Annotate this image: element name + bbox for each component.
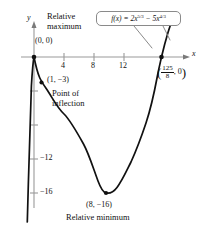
inflection-note-line2: inflection — [52, 99, 85, 108]
formula-lhs: f(x) = — [111, 14, 130, 23]
x-intercept-label: (1258, 0) — [157, 63, 186, 80]
y-axis-arrow — [32, 21, 37, 28]
inflection-point-label: (1, −3) — [47, 76, 69, 85]
point-relative-maximum — [32, 55, 37, 60]
x-tick-label-8: 8 — [91, 62, 95, 71]
formula-term2-exp: 4/3 — [160, 14, 166, 19]
point-inflection — [39, 80, 43, 84]
curve-left-branch — [27, 57, 34, 222]
y-axis-label: y — [27, 14, 31, 23]
x-axis-arrow — [183, 55, 190, 60]
point-x-intercept — [159, 55, 164, 60]
x-intercept-tail: , 0 — [174, 68, 182, 77]
x-axis-label: x — [192, 50, 196, 59]
relative-minimum-label: Relative minimum — [66, 213, 130, 222]
point-relative-minimum — [104, 191, 108, 195]
relative-maximum-line1: Relative — [47, 12, 75, 21]
relative-maximum-point-label: (0, 0) — [35, 37, 52, 46]
close-paren: ) — [182, 66, 186, 79]
function-formula-callout: f(x) = 2x5/3 − 5x4/3 — [96, 11, 181, 26]
relative-maximum-line2: maximum — [47, 22, 81, 31]
y-tick-label-minus12: −12 — [40, 154, 53, 163]
fraction-125-over-8: 1258 — [161, 65, 174, 80]
function-formula-text: f(x) = 2x5/3 − 5x4/3 — [111, 14, 166, 23]
relative-minimum-point-label: (8, −16) — [86, 201, 112, 210]
x-intercept-group: (1258, 0) — [157, 65, 186, 80]
fraction-denominator: 8 — [165, 73, 171, 80]
function-graph-figure: f(x) = 2x5/3 − 5x4/3 y x 4 8 12 −12 −16 … — [0, 0, 208, 231]
y-tick-label-minus16: −16 — [40, 188, 53, 197]
inflection-note-line1: Point of — [52, 89, 79, 98]
formula-operator: − — [144, 14, 153, 23]
x-tick-label-4: 4 — [61, 62, 65, 71]
x-tick-label-12: 12 — [119, 62, 127, 71]
graph-svg — [0, 0, 208, 231]
